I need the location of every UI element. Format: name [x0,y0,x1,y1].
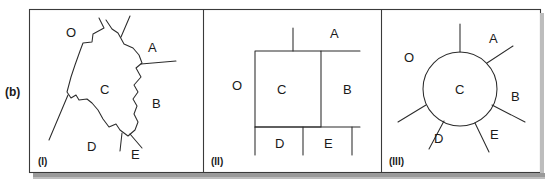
spoke-east [492,105,525,122]
figure-shadow-soft [33,177,545,179]
panel-ii-region-label-b: B [343,82,352,97]
panel-ii-region-label-c: C [277,82,286,97]
boundary-spur-south [120,133,122,151]
spoke-south [475,123,489,152]
panel-iii-region-label-d: D [434,131,443,146]
panel-i-region-label-e: E [131,147,140,162]
panel-ii-region-label-d: D [275,136,284,151]
panel-i-region-label-b: B [152,96,161,111]
panel-ii-caption: (II) [211,156,223,167]
panel-i-region-label-d: D [87,139,96,154]
boundary-spur-southwest [49,95,68,140]
panel-iii-caption: (III) [389,156,404,167]
boundary-spur-east [141,61,176,64]
panel-ii-region-label-a: A [330,26,339,41]
panel-i-region-label-c: C [100,82,109,97]
boundary-spur-southeast [130,134,142,148]
spoke-northeast [487,46,513,63]
panel-iii-region-label-e: E [490,127,499,142]
panel-iii-region-label-c: C [455,82,464,97]
panel-i-region-label-o: O [66,25,76,40]
figure-shadow [33,173,545,177]
panel-iii-region-label-a: A [489,31,498,46]
figure-container: (b) [0,0,547,188]
figure-shadow-right [540,13,544,173]
panel-iii-region-label-o: O [404,50,414,65]
panel-i-region-label-a: A [148,40,157,55]
panel-iii-region-label-b: B [511,89,520,104]
figure-canvas [0,0,547,188]
spoke-west [398,105,426,122]
region-c-boundary-irregular [67,18,142,136]
panel-ii-region-label-e: E [324,136,333,151]
panel-ii-region-label-o: O [232,78,242,93]
boundary-spur-north [121,16,130,37]
region-c-rect [255,51,321,127]
panel-i-caption: (I) [38,156,47,167]
